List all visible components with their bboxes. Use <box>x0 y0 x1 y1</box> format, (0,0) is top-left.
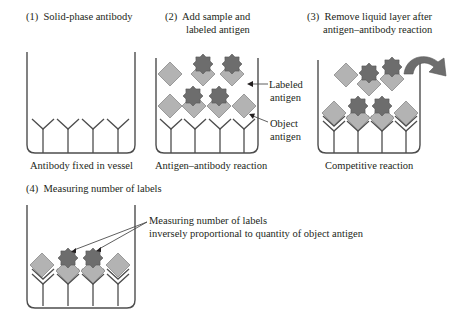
object-antigen-icon <box>322 101 346 125</box>
labeled-antigen-icon <box>207 86 231 118</box>
antibody-icon <box>184 119 206 153</box>
object-antigen-icon <box>106 253 130 277</box>
labeled-antigen-icon <box>191 54 215 86</box>
panel-3-vessel <box>318 57 446 153</box>
object-antigen-icon <box>158 62 182 86</box>
antibody-icon <box>160 119 182 153</box>
panel-2-vessel <box>156 54 268 153</box>
labeled-antigen-icon <box>357 63 381 96</box>
antibody-icon <box>32 119 54 153</box>
labeled-antigen-icon <box>370 96 394 130</box>
labeled-antigen-icon <box>81 248 105 283</box>
object-antigen-icon <box>394 101 418 125</box>
antibody-icon <box>82 119 104 153</box>
labeled-antigen-icon <box>380 57 404 91</box>
immunoassay-diagram <box>0 0 467 325</box>
labeled-antigen-icon <box>56 248 80 283</box>
object-antigen-icon <box>30 253 54 277</box>
object-antigen-icon <box>334 63 358 87</box>
object-antigen-icon <box>158 94 182 118</box>
labeled-antigen-icon <box>346 96 370 130</box>
panel-4-vessel <box>27 205 147 308</box>
antibody-icon <box>209 119 231 153</box>
antibody-icon <box>107 119 129 153</box>
panel-1-vessel <box>27 52 135 153</box>
remove-liquid-arrow-icon <box>404 57 446 76</box>
labeled-antigen-icon <box>182 86 206 118</box>
antibody-icon <box>233 119 255 153</box>
antibody-icon <box>57 119 79 153</box>
labeled-antigen-icon <box>220 54 244 86</box>
